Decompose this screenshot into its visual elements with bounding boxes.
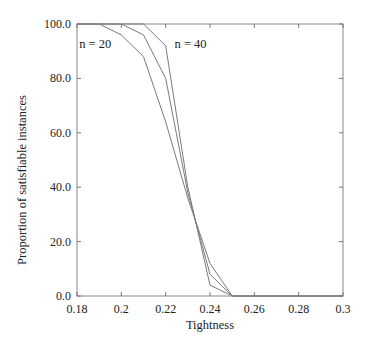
series-annotation: n = 40 bbox=[175, 37, 207, 51]
x-tick-label: 0.26 bbox=[244, 302, 265, 316]
annotations: n = 20n = 40 bbox=[79, 37, 206, 51]
series-line-1 bbox=[77, 24, 343, 296]
y-tick-label: 100.0 bbox=[44, 17, 71, 31]
plot-frame bbox=[77, 24, 343, 296]
y-tick-label: 0.0 bbox=[56, 289, 71, 303]
series-line-2 bbox=[77, 24, 343, 296]
plot-lines bbox=[77, 24, 343, 296]
y-tick-label: 60.0 bbox=[50, 126, 71, 140]
y-tick-label: 20.0 bbox=[50, 235, 71, 249]
y-tick-label: 40.0 bbox=[50, 180, 71, 194]
x-tick-label: 0.24 bbox=[200, 302, 221, 316]
y-axis: 0.020.040.060.080.0100.0 bbox=[44, 17, 343, 303]
series-annotation: n = 20 bbox=[79, 37, 111, 51]
y-axis-label: Proportion of satisfiable instances bbox=[15, 95, 29, 265]
series-line-3 bbox=[77, 24, 343, 296]
line-chart: 0.180.20.220.240.260.280.3 0.020.040.060… bbox=[0, 0, 367, 347]
x-axis-label: Tightness bbox=[186, 318, 234, 332]
x-tick-label: 0.22 bbox=[155, 302, 176, 316]
x-tick-label: 0.18 bbox=[67, 302, 88, 316]
y-tick-label: 80.0 bbox=[50, 71, 71, 85]
x-tick-label: 0.3 bbox=[336, 302, 351, 316]
x-axis: 0.180.20.220.240.260.280.3 bbox=[67, 24, 351, 316]
x-tick-label: 0.28 bbox=[288, 302, 309, 316]
x-tick-label: 0.2 bbox=[114, 302, 129, 316]
